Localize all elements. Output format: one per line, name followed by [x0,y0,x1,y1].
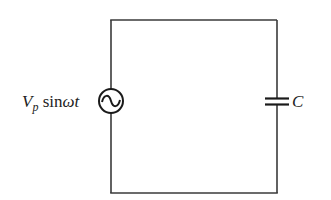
capacitor-label: C [292,92,304,111]
ac-source [99,89,123,113]
capacitor [265,99,289,105]
sine-wave-icon [102,96,120,106]
circuit-diagram: Vp sinωt C [0,0,331,200]
circuit-wires [110,20,278,193]
source-label: Vp sinωt [22,92,81,114]
